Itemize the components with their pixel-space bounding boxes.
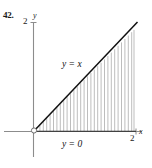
origin-open-circle-marker (31, 128, 36, 133)
figure-container: 42. (0, 0, 152, 168)
x-axis-tick-label-2: 2 (130, 133, 135, 143)
x-axis-name-label: x (139, 127, 143, 136)
curve-label-y-equals-x: y = x (62, 59, 82, 69)
y-axis-tick-label-2: 2 (23, 16, 28, 26)
curve-y-equals-x (34, 22, 138, 131)
shaded-region-hatching (37, 30, 135, 131)
y-axis-name-label: y (33, 11, 37, 20)
curve-label-y-equals-0: y = 0 (62, 139, 82, 149)
